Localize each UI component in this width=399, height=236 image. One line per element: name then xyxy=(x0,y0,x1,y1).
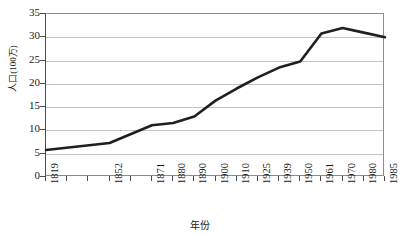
x-tick-mark xyxy=(109,176,110,181)
x-tick-mark xyxy=(215,176,216,181)
x-tick-mark xyxy=(299,176,300,181)
plot-area xyxy=(45,13,384,176)
x-tick-mark xyxy=(172,176,173,181)
x-tick-mark xyxy=(236,176,237,181)
x-tick-mark xyxy=(363,176,364,181)
x-tick-label: 1939 xyxy=(282,163,293,184)
x-tick-label: 1852 xyxy=(113,163,124,184)
x-axis-title: 年份 xyxy=(0,217,399,232)
x-tick-label: 1980 xyxy=(367,163,378,184)
x-tick-label: 1880 xyxy=(176,163,187,184)
x-tick-label: 1985 xyxy=(388,163,399,184)
x-tick-mark xyxy=(66,176,67,181)
x-tick-mark xyxy=(193,176,194,181)
y-tick-label: 35 xyxy=(8,7,40,18)
y-tick-label: 5 xyxy=(8,147,40,158)
x-tick-mark xyxy=(87,176,88,181)
series-line-population xyxy=(46,14,385,177)
x-tick-label: 1970 xyxy=(346,163,357,184)
y-tick-label: 30 xyxy=(8,30,40,41)
x-tick-mark xyxy=(278,176,279,181)
y-tick-label: 25 xyxy=(8,54,40,65)
y-tick-label: 0 xyxy=(8,170,40,181)
population-line-chart: 人口(100万) 05101520253035 1819185218711880… xyxy=(0,0,399,236)
x-tick-label: 1900 xyxy=(219,163,230,184)
x-tick-mark xyxy=(151,176,152,181)
x-tick-label: 1910 xyxy=(240,163,251,184)
x-tick-label: 1819 xyxy=(49,163,60,184)
x-tick-label: 1961 xyxy=(324,163,335,184)
x-tick-mark xyxy=(342,176,343,181)
x-tick-mark xyxy=(45,176,46,181)
y-tick-label: 10 xyxy=(8,123,40,134)
x-tick-mark xyxy=(130,176,131,181)
x-tick-mark xyxy=(384,176,385,181)
y-tick-label: 20 xyxy=(8,77,40,88)
x-tick-label: 1890 xyxy=(197,163,208,184)
y-tick-label: 15 xyxy=(8,100,40,111)
x-tick-mark xyxy=(320,176,321,181)
x-tick-label: 1925 xyxy=(261,163,272,184)
x-tick-label: 1950 xyxy=(303,163,314,184)
x-tick-label: 1871 xyxy=(155,163,166,184)
x-tick-mark xyxy=(257,176,258,181)
